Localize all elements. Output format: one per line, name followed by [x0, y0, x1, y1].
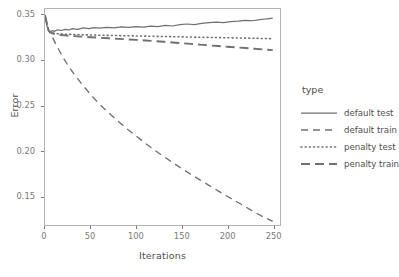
legend-item[interactable]: default test	[300, 104, 390, 121]
x-axis-title: Iterations	[44, 250, 281, 261]
x-tick-label: 200	[213, 231, 243, 241]
y-tick-label: 0.35	[5, 9, 35, 19]
legend-title: type	[302, 84, 390, 95]
legend-item[interactable]: penalty test	[300, 138, 390, 155]
legend-item-label: penalty test	[344, 142, 396, 152]
legend-key-icon	[300, 107, 338, 119]
plot-panel	[44, 8, 281, 226]
legend: type default testdefault trainpenalty te…	[300, 84, 390, 172]
legend-item[interactable]: penalty train	[300, 155, 390, 172]
x-tick-label: 50	[75, 231, 105, 241]
x-tick-label: 250	[259, 231, 289, 241]
y-tick-mark	[41, 60, 44, 61]
legend-item-label: default test	[344, 108, 393, 118]
x-tick-mark	[182, 226, 183, 229]
legend-key-icon	[300, 141, 338, 153]
x-tick-mark	[136, 226, 137, 229]
x-tick-mark	[274, 226, 275, 229]
y-tick-label: 0.30	[5, 54, 35, 64]
x-tick-label: 0	[29, 231, 59, 241]
y-tick-mark	[41, 14, 44, 15]
y-axis-title: Error	[9, 76, 20, 136]
x-tick-mark	[44, 226, 45, 229]
legend-key-icon	[300, 158, 338, 170]
y-tick-label: 0.15	[5, 191, 35, 201]
y-tick-mark	[41, 197, 44, 198]
legend-item-label: penalty train	[344, 159, 399, 169]
series-line	[45, 15, 273, 31]
y-tick-mark	[41, 106, 44, 107]
legend-items: default testdefault trainpenalty testpen…	[300, 104, 390, 172]
x-tick-mark	[228, 226, 229, 229]
x-tick-label: 100	[121, 231, 151, 241]
y-tick-label: 0.20	[5, 146, 35, 156]
x-tick-label: 150	[167, 231, 197, 241]
legend-item-label: default train	[344, 125, 397, 135]
legend-item[interactable]: default train	[300, 121, 390, 138]
plot-area	[45, 9, 280, 225]
series-line	[45, 15, 273, 221]
legend-key-icon	[300, 124, 338, 136]
x-tick-mark	[90, 226, 91, 229]
y-tick-mark	[41, 151, 44, 152]
